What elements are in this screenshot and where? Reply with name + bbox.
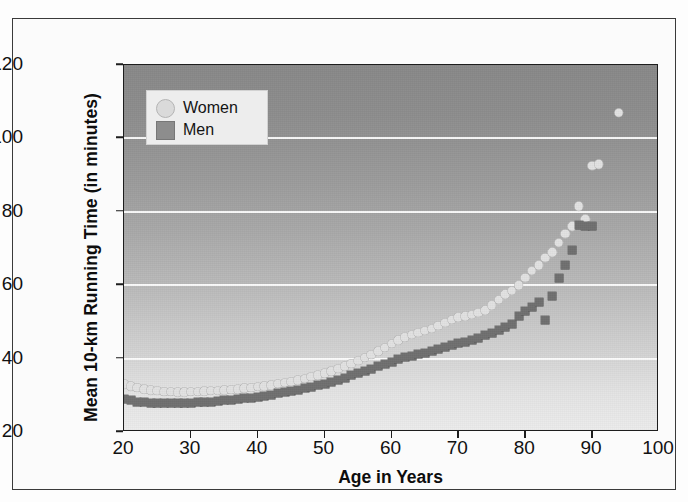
figure: Mean 10-km Running Time (in minutes) 204… (0, 0, 688, 502)
y-tick-mark-20 (116, 430, 123, 432)
legend-label-men: Men (183, 121, 214, 139)
x-tick-mark-30 (190, 431, 192, 438)
x-tick-label-60: 60 (364, 437, 418, 459)
x-tick-mark-50 (324, 431, 326, 438)
y-tick-mark-80 (116, 210, 123, 212)
x-tick-mark-90 (591, 431, 593, 438)
y-tick-label-40: 40 (0, 347, 23, 369)
data-point-women (547, 247, 557, 257)
chart-legend: Women Men (146, 90, 268, 145)
legend-label-women: Women (183, 99, 238, 117)
x-tick-label-20: 20 (96, 437, 150, 459)
data-point-men (568, 246, 577, 255)
data-point-women (594, 159, 604, 169)
x-tick-mark-70 (457, 431, 459, 438)
plot-area: Women Men (123, 64, 658, 431)
y-tick-label-120: 120 (0, 53, 23, 75)
x-axis-label: Age in Years (123, 467, 658, 488)
y-tick-label-20: 20 (0, 420, 23, 442)
legend-circle-icon (156, 99, 175, 118)
x-tick-label-70: 70 (430, 437, 484, 459)
y-tick-label-100: 100 (0, 126, 23, 148)
data-point-men (554, 273, 563, 282)
figure-frame: Mean 10-km Running Time (in minutes) 204… (12, 18, 676, 490)
y-tick-mark-40 (116, 357, 123, 359)
data-point-men (588, 222, 597, 231)
y-tick-label-60: 60 (0, 273, 23, 295)
data-point-women (554, 238, 564, 248)
y-tick-mark-100 (116, 137, 123, 139)
legend-item-women: Women (156, 97, 259, 119)
data-point-women (574, 202, 584, 212)
x-tick-label-50: 50 (297, 437, 351, 459)
x-tick-label-100: 100 (631, 437, 685, 459)
y-tick-mark-120 (116, 63, 123, 65)
gridline-80 (124, 211, 657, 213)
y-tick-label-80: 80 (0, 200, 23, 222)
x-tick-mark-80 (524, 431, 526, 438)
gridline-60 (124, 284, 657, 286)
x-tick-label-80: 80 (497, 437, 551, 459)
x-tick-mark-40 (257, 431, 259, 438)
data-point-men (548, 292, 557, 301)
y-tick-mark-60 (116, 283, 123, 285)
legend-square-icon (156, 121, 175, 140)
data-point-men (534, 297, 543, 306)
y-axis-label: Mean 10-km Running Time (in minutes) (81, 58, 102, 458)
data-point-women (614, 108, 624, 118)
x-tick-label-30: 30 (163, 437, 217, 459)
x-tick-label-90: 90 (564, 437, 618, 459)
data-point-men (561, 261, 570, 270)
x-tick-mark-60 (391, 431, 393, 438)
data-point-men (541, 316, 550, 325)
x-tick-label-40: 40 (230, 437, 284, 459)
legend-item-men: Men (156, 119, 259, 141)
